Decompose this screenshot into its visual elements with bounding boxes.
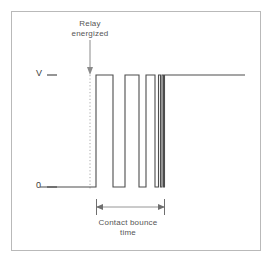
relay-pointer-arrowhead	[87, 67, 93, 75]
relay-energized-label-line1: Relay	[60, 19, 120, 29]
contact-bounce-time-label-line2: time	[82, 228, 174, 238]
relay-energized-label-line2: energized	[60, 29, 120, 39]
contact-bounce-time-label-line1: Contact bounce	[82, 218, 174, 228]
axis-label-high: V	[36, 68, 42, 78]
bounce-arrowhead-right	[158, 204, 165, 210]
contact-voltage-trace	[40, 75, 245, 187]
bounce-arrowhead-left	[96, 204, 103, 210]
relay-energized-label: Relay energized	[60, 19, 120, 39]
figure-root: V 0 Relay energized Contact bounce time	[0, 0, 273, 263]
contact-bounce-time-label: Contact bounce time	[82, 218, 174, 238]
axis-label-low: 0	[36, 180, 41, 190]
figure-border	[12, 12, 261, 251]
